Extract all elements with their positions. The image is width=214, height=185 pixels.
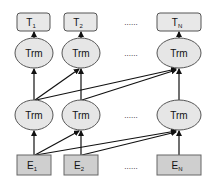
top-trm-node-2: Trm xyxy=(62,38,100,68)
svg-text:Trm: Trm xyxy=(72,110,89,121)
input-connections xyxy=(34,131,179,155)
output-box-t1: T1 xyxy=(17,13,50,31)
output-box-tn: TN xyxy=(157,13,201,31)
ellipsis-bottom-layer: ...... xyxy=(124,111,137,120)
ellipsis-outputs: ...... xyxy=(124,18,137,27)
output-box-t2: T2 xyxy=(64,13,97,31)
ellipsis-top-layer: ...... xyxy=(124,49,137,58)
bottom-trm-node-1: Trm xyxy=(15,100,53,130)
svg-text:Trm: Trm xyxy=(25,110,42,121)
top-trm-node-n: Trm xyxy=(157,38,201,68)
svg-text:Trm: Trm xyxy=(170,48,187,59)
input-box-e2: E2 xyxy=(64,155,98,175)
bottom-trm-node-n: Trm xyxy=(157,100,201,130)
svg-text:Trm: Trm xyxy=(72,48,89,59)
transformer-diagram: T1 T2 TN Trm Trm Trm Trm Trm xyxy=(0,0,214,185)
svg-text:Trm: Trm xyxy=(170,110,187,121)
ellipsis-inputs: ...... xyxy=(124,162,137,171)
top-trm-node-1: Trm xyxy=(15,38,53,68)
bottom-trm-node-2: Trm xyxy=(62,100,100,130)
input-box-en: EN xyxy=(157,155,201,175)
layer-connections xyxy=(34,69,179,100)
svg-text:Trm: Trm xyxy=(25,48,42,59)
input-box-e1: E1 xyxy=(17,155,51,175)
